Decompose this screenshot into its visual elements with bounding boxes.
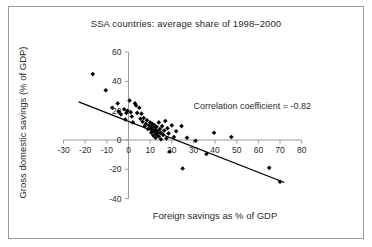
- annotation-group: Correlation coefficient = -0.82: [193, 101, 311, 111]
- data-point-marker: [90, 72, 95, 77]
- scatter-plot-canvas: -30-20-1001020304050607080 -40-200204060…: [0, 0, 372, 247]
- x-tick-label: 70: [275, 145, 285, 155]
- x-tick-label: 10: [145, 145, 155, 155]
- data-point-marker: [157, 120, 162, 125]
- x-tick-label: 80: [297, 145, 307, 155]
- x-tick-label: -20: [79, 145, 92, 155]
- data-point-marker: [103, 88, 108, 93]
- data-point-marker: [174, 129, 179, 134]
- x-tick-label: 20: [167, 145, 177, 155]
- y-tick-label: -20: [109, 164, 122, 174]
- x-tick-label: 60: [254, 145, 264, 155]
- chart-figure: SSA countries: average share of 1998–200…: [0, 0, 372, 247]
- x-tick-label: 0: [126, 145, 131, 155]
- y-axis-ticks: -40-200204060: [109, 47, 128, 204]
- data-point-marker: [139, 111, 144, 116]
- data-point-marker: [212, 130, 217, 135]
- data-point-marker: [129, 114, 134, 119]
- y-tick-label: 0: [117, 135, 122, 145]
- data-point-marker: [163, 119, 168, 124]
- data-point-marker: [229, 135, 234, 140]
- data-point-marker: [180, 166, 185, 171]
- data-point-marker: [179, 124, 184, 129]
- y-tick-label: 60: [112, 47, 122, 57]
- data-point-marker: [127, 98, 132, 103]
- data-point-marker: [166, 131, 171, 136]
- data-point-marker: [170, 123, 175, 128]
- y-tick-label: -40: [109, 194, 122, 204]
- y-tick-label: 40: [112, 76, 122, 86]
- data-point-marker: [185, 136, 190, 141]
- data-point-marker: [135, 111, 140, 116]
- x-tick-label: 50: [232, 145, 242, 155]
- data-point-marker: [193, 138, 198, 143]
- correlation-coefficient-annotation: Correlation coefficient = -0.82: [193, 101, 311, 111]
- data-point-marker: [267, 166, 272, 171]
- x-tick-label: -10: [101, 145, 114, 155]
- x-tick-label: -30: [57, 145, 70, 155]
